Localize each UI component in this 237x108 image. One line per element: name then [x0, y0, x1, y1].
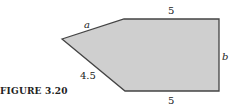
label-upper-left-side: a [84, 19, 90, 30]
label-lower-left-side: 4.5 [80, 70, 96, 81]
label-top-side: 5 [168, 5, 174, 16]
label-right-side: b [222, 51, 228, 62]
figure-caption: FIGURE 3.20 [0, 86, 68, 96]
figure-diagram: 5 5 b a 4.5 FIGURE 3.20 [0, 0, 237, 108]
label-bottom-side: 5 [168, 95, 174, 106]
